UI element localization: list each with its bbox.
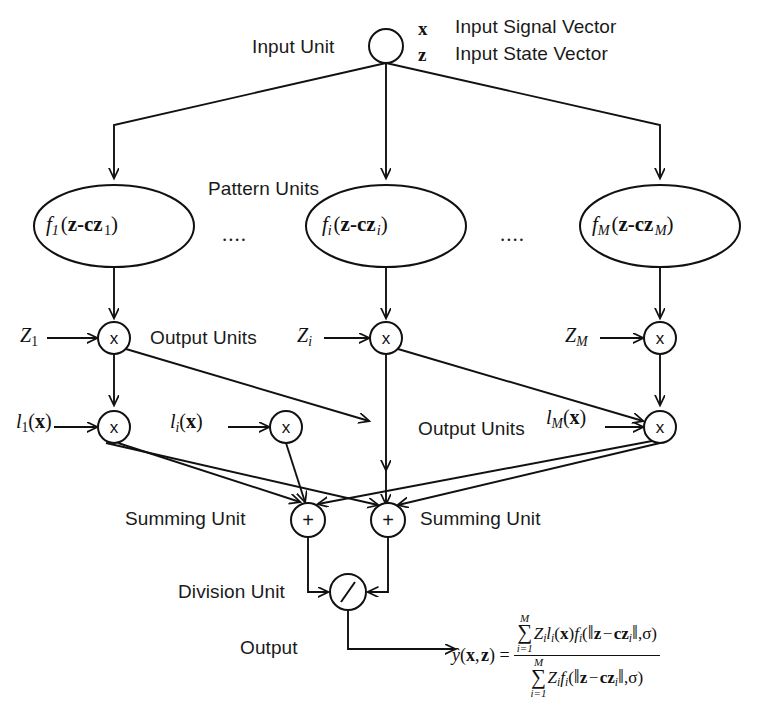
edge-muli-to-lM [398, 349, 643, 421]
edge-mulM-to-sum-right [398, 443, 660, 505]
pattern-unit-i-formula: fi (z-cz i) [322, 212, 388, 239]
summing-unit-right-label: Summing Unit [420, 508, 541, 530]
input-state-vector-label: Input State Vector [455, 43, 608, 65]
sum-glyph-right: + [382, 509, 394, 531]
ellipsis-right: .... [500, 222, 525, 247]
formula-lhs: ŷ(x, z) = [452, 645, 510, 666]
mul-glyph-lM: x [656, 418, 665, 437]
network-diagram: x x x x x x + + Input Unit x Input Signa… [0, 0, 771, 720]
numerator-body: Zili(x)fi(‖z − czi‖,σ) [534, 622, 657, 645]
denominator-sigma: M ∑ i=1 [531, 657, 547, 698]
output-units-label-row2: Output Units [418, 418, 525, 440]
pattern-unit-1-formula: f1 (z-cz 1) [46, 212, 118, 239]
output-label: Output [240, 637, 298, 659]
edge-mul1-to-li [126, 349, 369, 421]
edge-li-to-sum-left [286, 443, 305, 502]
edge-input-to-pattern-1 [114, 63, 386, 178]
output-formula: ŷ(x, z) = M ∑ i=1 Zili(x)fi(‖z − czi‖,σ)… [452, 612, 660, 699]
pattern-units-label: Pattern Units [208, 178, 319, 200]
edge-sum-left-to-div [308, 537, 328, 592]
formula-fraction: M ∑ i=1 Zili(x)fi(‖z − czi‖,σ) M ∑ i=1 Z… [514, 612, 660, 699]
division-unit-label: Division Unit [178, 581, 285, 603]
numerator-sigma: M ∑ i=1 [517, 613, 533, 654]
formula-numerator: M ∑ i=1 Zili(x)fi(‖z − czi‖,σ) [514, 612, 660, 655]
sum-glyph-left: + [302, 509, 314, 531]
denominator-body: Zifi(‖z − czi‖,σ) [548, 666, 644, 689]
input-unit-label: Input Unit [252, 36, 334, 58]
weight-label-Zi: Zi [297, 324, 312, 350]
mul-glyph-M: x [656, 329, 665, 348]
edge-sum-right-to-div [368, 537, 388, 592]
edge-mul1-to-sum-right [106, 443, 378, 505]
formula-denominator: M ∑ i=1 Zifi(‖z − czi‖,σ) [528, 656, 646, 699]
pattern-unit-M-formula: fM (z-cz M) [592, 212, 674, 239]
ellipsis-left: .... [222, 222, 247, 247]
weight-label-l1: l1(x) [16, 410, 52, 436]
input-unit-node [369, 29, 403, 63]
weight-label-lM: lM(x) [546, 406, 586, 432]
mul-glyph-i: x [382, 329, 391, 348]
edge-div-to-output [348, 610, 455, 649]
input-signal-symbol: x [418, 18, 428, 40]
mul-glyph-l1: x [110, 418, 119, 437]
weight-label-ZM: ZM [565, 324, 587, 350]
edge-lM-to-sum-left [318, 441, 652, 504]
mul-glyph-li: x [282, 418, 291, 437]
input-state-symbol: z [418, 44, 426, 66]
weight-label-Z1: Z1 [20, 324, 38, 350]
summing-unit-left-label: Summing Unit [125, 508, 246, 530]
mul-glyph-1: x [110, 329, 119, 348]
input-signal-vector-label: Input Signal Vector [455, 16, 616, 38]
weight-label-li: li(x) [170, 410, 203, 436]
output-units-label-row1: Output Units [150, 327, 257, 349]
edge-input-to-pattern-M [386, 63, 660, 178]
